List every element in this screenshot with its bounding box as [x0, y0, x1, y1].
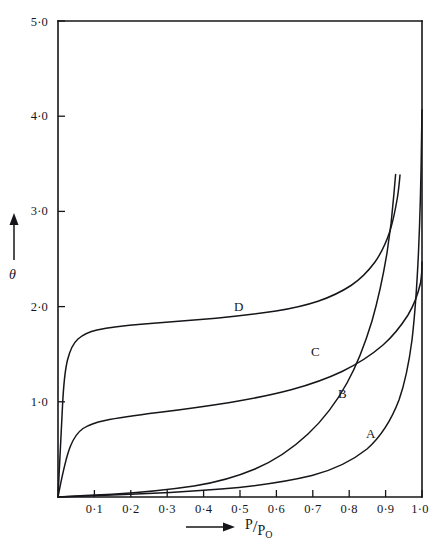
- x-tick-label-0-3: 0·3: [159, 503, 176, 516]
- x-tick-label-0-7: 0·7: [304, 503, 321, 516]
- y-tick-label-3-0: 3·0: [18, 205, 48, 218]
- y-axis-arrow-icon: [10, 213, 19, 260]
- chart-canvas: [0, 0, 436, 550]
- y-tick-label-4-0: 4·0: [18, 110, 48, 123]
- curve-label-c: C: [311, 345, 320, 358]
- x-tick-label-0-6: 0·6: [268, 503, 285, 516]
- y-tick-label-1-0: 1·0: [18, 396, 48, 409]
- curve-d: [58, 175, 400, 497]
- x-tick-label-0-9: 0·9: [377, 503, 394, 516]
- y-axis-title: θ: [9, 268, 16, 282]
- y-tick-label-2-0: 2·0: [18, 300, 48, 313]
- x-tick-label-0-8: 0·8: [341, 503, 358, 516]
- adsorption-isotherm-figure: 1·0 2·0 3·0 4·0 5·0 0·1 0·2 0·3 0·4 0·5 …: [0, 0, 436, 550]
- x-axis-title-numerator: P: [245, 517, 253, 532]
- curve-label-a: A: [366, 427, 375, 440]
- curve-label-b: B: [338, 387, 347, 400]
- curve-b: [58, 175, 396, 498]
- x-tick-label-0-5: 0·5: [231, 503, 248, 516]
- x-axis-title: P/PO: [245, 518, 273, 535]
- y-axis-ticks: [58, 21, 65, 402]
- curve-c: [58, 262, 422, 497]
- x-axis-title-subscript: O: [265, 529, 272, 540]
- x-tick-label-0-2: 0·2: [122, 503, 139, 516]
- x-tick-label-0-4: 0·4: [195, 503, 212, 516]
- x-axis-title-slash: /: [253, 517, 258, 536]
- y-tick-label-5-0: 5·0: [18, 16, 48, 29]
- x-axis-arrow-icon: [186, 523, 235, 532]
- x-tick-label-1-0: 1·0: [411, 503, 428, 516]
- curve-label-d: D: [234, 300, 243, 313]
- x-tick-label-0-1: 0·1: [86, 503, 103, 516]
